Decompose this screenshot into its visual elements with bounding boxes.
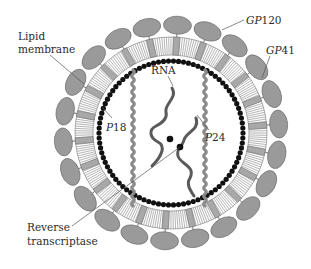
gp41-transmembrane-block <box>162 211 169 229</box>
matrix-protein-dot <box>186 61 191 66</box>
matrix-protein-dot <box>141 64 146 69</box>
matrix-protein-dot <box>240 140 245 145</box>
p18-capsid-wave-left <box>132 70 135 206</box>
label-gp41-number: 41 <box>281 44 294 56</box>
gp41-transmembrane-block <box>248 122 266 129</box>
matrix-protein-dot <box>103 160 108 165</box>
matrix-protein-dot <box>236 106 241 111</box>
matrix-protein-dot <box>141 197 146 202</box>
gp120-glycoprotein <box>54 96 77 127</box>
leader-gp120 <box>222 20 244 30</box>
matrix-protein-dot <box>238 150 243 155</box>
matrix-protein-dot <box>97 135 102 140</box>
matrix-protein-dot <box>97 125 102 130</box>
matrix-protein-dot <box>195 197 200 202</box>
matrix-protein-dot <box>181 201 186 206</box>
matrix-protein-dot <box>236 155 241 160</box>
label-gp120-prefix: GP <box>246 14 262 26</box>
matrix-protein-dot <box>156 201 161 206</box>
matrix-protein-dot <box>151 200 156 205</box>
matrix-protein-dot <box>99 111 104 116</box>
matrix-protein-dot <box>238 111 243 116</box>
gp41-transmembrane-block <box>75 136 93 143</box>
leader-rna <box>168 76 173 86</box>
label-reverse-transcriptase-line2: transcriptase <box>27 235 98 247</box>
rna-strands <box>151 88 197 196</box>
label-lipid-membrane-line1: Lipid <box>18 30 45 42</box>
gp120-glycoprotein <box>269 109 289 138</box>
label-p18: P18 <box>105 121 126 133</box>
gp120-glycoprotein <box>180 226 211 250</box>
label-gp120: GP120 <box>246 14 282 26</box>
matrix-protein-dot <box>240 135 245 140</box>
matrix-protein-dot <box>105 97 110 102</box>
gp41-transmembrane-block <box>173 37 180 55</box>
matrix-protein-dot <box>234 101 239 106</box>
matrix-protein-dot <box>240 130 245 135</box>
label-p24-number: 24 <box>212 131 226 143</box>
label-lipid-membrane-line2: membrane <box>18 43 75 55</box>
reverse-transcriptase-dot-1 <box>167 136 174 143</box>
matrix-protein-dot <box>166 58 171 63</box>
matrix-protein-dot <box>176 59 181 64</box>
gp120-glycoprotein <box>53 127 73 156</box>
label-gp120-number: 120 <box>261 14 281 26</box>
matrix-protein-dot <box>191 62 196 67</box>
matrix-protein-dot <box>96 130 101 135</box>
matrix-protein-dot <box>229 92 234 97</box>
label-p24: P24 <box>204 131 226 143</box>
hiv-virion-diagram: Lipid membrane GP120 GP41 RNA P18 P24 Re… <box>0 0 311 269</box>
matrix-protein-dot <box>181 59 186 64</box>
matrix-protein-dot <box>161 202 166 207</box>
label-gp41: GP41 <box>266 44 295 56</box>
gp120-glycoprotein <box>265 139 288 170</box>
matrix-protein-dot <box>240 120 245 125</box>
matrix-protein-dot <box>137 195 142 200</box>
matrix-protein-dot <box>232 164 237 169</box>
label-reverse-transcriptase-line1: Reverse <box>27 221 70 233</box>
matrix-protein-dot <box>103 101 108 106</box>
label-rna: RNA <box>151 64 176 76</box>
matrix-protein-dot <box>191 199 196 204</box>
matrix-protein-dot <box>99 150 104 155</box>
matrix-protein-dot <box>239 115 244 120</box>
membrane-inner-edge <box>93 55 249 211</box>
matrix-protein-dot <box>98 115 103 120</box>
matrix-protein-dot <box>232 97 237 102</box>
gp120-glycoprotein <box>163 15 192 35</box>
matrix-protein-dot <box>146 199 151 204</box>
matrix-protein-dot <box>239 145 244 150</box>
label-p18-number: 18 <box>113 121 126 133</box>
matrix-protein-dot <box>195 64 200 69</box>
matrix-protein-dot <box>105 164 110 169</box>
label-gp41-prefix: GP <box>266 44 282 56</box>
matrix-protein-dot <box>176 202 181 207</box>
gp120-glycoprotein <box>131 16 162 40</box>
matrix-protein-dot <box>240 125 245 130</box>
matrix-protein-dot <box>186 200 191 205</box>
matrix-protein-dot <box>234 160 239 165</box>
matrix-protein-dot <box>97 120 102 125</box>
matrix-protein-dot <box>97 140 102 145</box>
gp120-glycoprotein <box>150 231 179 251</box>
matrix-protein-dot <box>107 169 112 174</box>
matrix-protein-dot <box>101 155 106 160</box>
matrix-protein-dot <box>166 202 171 207</box>
matrix-protein-dot <box>171 202 176 207</box>
matrix-protein-dot <box>98 145 103 150</box>
matrix-protein-dot <box>171 58 176 63</box>
matrix-protein-dot <box>137 66 142 71</box>
rna-strand-2 <box>178 118 197 196</box>
